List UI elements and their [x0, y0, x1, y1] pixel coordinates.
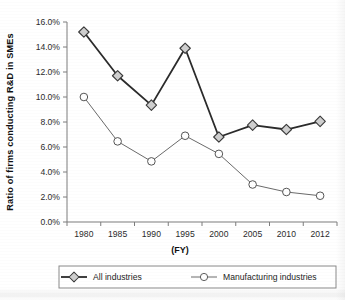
y-axis-title-text: Ratio of firms conducting R&D in SMEs: [5, 33, 15, 211]
y-axis-title: Ratio of firms conducting R&D in SMEs: [5, 33, 15, 211]
x-tick-label: 2012: [311, 229, 330, 239]
circle-marker: [200, 273, 207, 280]
y-tick-label: 2.0%: [40, 192, 60, 202]
y-tick-label: 14.0%: [36, 42, 61, 52]
chart-container: Ratio of firms conducting R&D in SMEs 0.…: [0, 0, 345, 300]
circle-marker: [80, 93, 88, 101]
y-tick-label: 0.0%: [40, 217, 60, 227]
circle-marker: [181, 132, 189, 140]
circle-marker: [114, 138, 122, 146]
x-tick-label: 1995: [176, 229, 195, 239]
circle-marker: [249, 181, 257, 189]
legend-label: Manufacturing industries: [223, 272, 317, 282]
x-tick-label: 2000: [209, 229, 228, 239]
circle-marker: [283, 188, 291, 196]
y-tick-label: 4.0%: [40, 167, 60, 177]
x-axis-title-text: (FY): [171, 245, 189, 255]
chart-legend: All industriesManufacturing industries: [59, 266, 336, 288]
y-tick-label: 16.0%: [36, 17, 61, 27]
x-tick-label: 2005: [243, 229, 262, 239]
y-tick-label: 8.0%: [40, 117, 60, 127]
x-tick-label: 1985: [108, 229, 127, 239]
legend-label: All industries: [93, 272, 142, 282]
line-chart: Ratio of firms conducting R&D in SMEs 0.…: [0, 0, 345, 300]
circle-marker: [316, 192, 324, 200]
y-tick-label: 10.0%: [36, 92, 61, 102]
x-tick-label: 1980: [74, 229, 93, 239]
y-tick-label: 6.0%: [40, 142, 60, 152]
x-tick-label: 2010: [277, 229, 296, 239]
circle-marker: [148, 158, 156, 166]
y-tick-label: 12.0%: [36, 67, 61, 77]
circle-marker: [215, 150, 223, 158]
x-tick-label: 1990: [142, 229, 161, 239]
